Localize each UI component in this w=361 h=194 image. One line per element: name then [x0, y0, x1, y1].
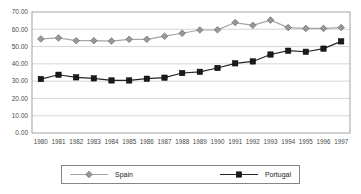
portugal-data-point [56, 72, 61, 77]
spain-data-point [250, 22, 257, 29]
x-axis-tick-label: 1983 [87, 138, 102, 145]
y-axis-tick-label: 50.00 [12, 43, 29, 50]
portugal-data-point [321, 46, 326, 51]
plot-area: 0.0010.0020.0030.0040.0050.0060.0070.001… [0, 0, 361, 150]
x-axis-tick-label: 1982 [69, 138, 84, 145]
spain-data-point [285, 24, 292, 31]
y-axis-tick-label: 60.00 [12, 26, 29, 33]
portugal-data-point [250, 59, 255, 64]
spain-data-point [144, 36, 151, 43]
spain-data-point [108, 38, 115, 45]
spain-data-point [55, 35, 62, 42]
spain-data-point [338, 24, 345, 31]
spain-data-point [197, 27, 204, 34]
x-axis-tick-label: 1994 [281, 138, 296, 145]
spain-data-point [126, 36, 133, 43]
x-axis-tick-label: 1996 [316, 138, 331, 145]
x-axis-tick-label: 1984 [104, 138, 119, 145]
y-axis-tick-label: 20.00 [12, 95, 29, 102]
legend-label-spain: Spain [115, 171, 133, 178]
y-axis-tick-label: 70.00 [12, 8, 29, 15]
x-axis-tick-label: 1997 [334, 138, 349, 145]
x-axis-tick-label: 1991 [228, 138, 243, 145]
x-axis-tick-label: 1981 [51, 138, 66, 145]
portugal-data-point [162, 75, 167, 80]
legend-label-portugal: Portugal [265, 171, 291, 178]
portugal-data-point [126, 78, 131, 83]
y-axis-tick-label: 0.00 [15, 129, 28, 136]
x-axis-tick-label: 1989 [193, 138, 208, 145]
y-axis-tick-label: 10.00 [12, 112, 29, 119]
spain-data-point [179, 30, 186, 37]
spain-data-point [161, 33, 168, 40]
spain-data-point [267, 17, 274, 24]
spain-data-point [303, 25, 310, 32]
legend-item-spain: Spain [70, 170, 133, 179]
portugal-data-point [144, 76, 149, 81]
spain-data-point [320, 25, 327, 32]
legend: Spain Portugal [61, 165, 300, 184]
portugal-data-point [38, 76, 43, 81]
spain-line [41, 20, 341, 41]
x-axis-tick-label: 1986 [140, 138, 155, 145]
x-axis-tick-label: 1995 [299, 138, 314, 145]
spain-data-point [38, 36, 45, 43]
x-axis-tick-label: 1987 [157, 138, 172, 145]
portugal-data-point [303, 49, 308, 54]
portugal-data-point [215, 65, 220, 70]
x-axis-tick-label: 1990 [210, 138, 225, 145]
portugal-data-point [285, 48, 290, 53]
spain-data-point [232, 19, 239, 26]
chart: 0.0010.0020.0030.0040.0050.0060.0070.001… [0, 0, 361, 194]
portugal-data-point [338, 39, 343, 44]
portugal-data-point [91, 76, 96, 81]
x-axis-tick-label: 1980 [34, 138, 49, 145]
y-axis-tick-label: 30.00 [12, 77, 29, 84]
spain-data-point [214, 27, 221, 34]
y-axis-tick-label: 40.00 [12, 60, 29, 67]
spain-line-marker-icon [70, 170, 108, 179]
portugal-data-point [197, 69, 202, 74]
spain-data-point [91, 37, 98, 44]
x-axis-tick-label: 1992 [246, 138, 261, 145]
portugal-data-point [109, 78, 114, 83]
portugal-data-point [232, 61, 237, 66]
x-axis-tick-label: 1993 [263, 138, 278, 145]
x-axis-tick-label: 1985 [122, 138, 137, 145]
portugal-data-point [179, 70, 184, 75]
portugal-line-marker-icon [220, 170, 258, 179]
spain-data-point [73, 37, 80, 44]
portugal-line [41, 41, 341, 80]
x-axis-tick-label: 1988 [175, 138, 190, 145]
portugal-data-point [73, 75, 78, 80]
portugal-data-point [268, 52, 273, 57]
legend-item-portugal: Portugal [220, 170, 291, 179]
